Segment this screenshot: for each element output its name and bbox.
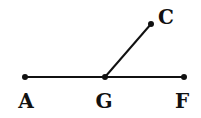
geometry-diagram: A G F C bbox=[0, 0, 201, 118]
label-c: C bbox=[158, 5, 174, 29]
point-f bbox=[181, 74, 187, 80]
point-c bbox=[148, 21, 154, 27]
label-a: A bbox=[17, 89, 34, 113]
label-f: F bbox=[175, 89, 189, 113]
segment-gc bbox=[105, 24, 151, 77]
label-g: G bbox=[95, 89, 112, 113]
point-g bbox=[102, 74, 108, 80]
point-a bbox=[22, 74, 28, 80]
